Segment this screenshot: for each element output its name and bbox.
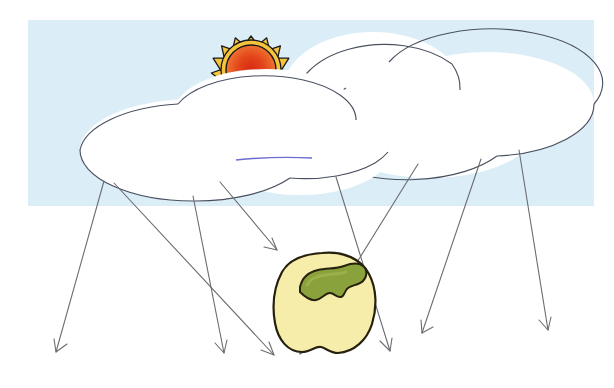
scene-svg xyxy=(0,0,614,388)
ray-1 xyxy=(54,181,104,352)
illustration-canvas xyxy=(0,0,614,388)
ray-2 xyxy=(193,196,227,353)
yellow-bell-pepper xyxy=(274,253,376,353)
ray-3 xyxy=(114,183,274,355)
